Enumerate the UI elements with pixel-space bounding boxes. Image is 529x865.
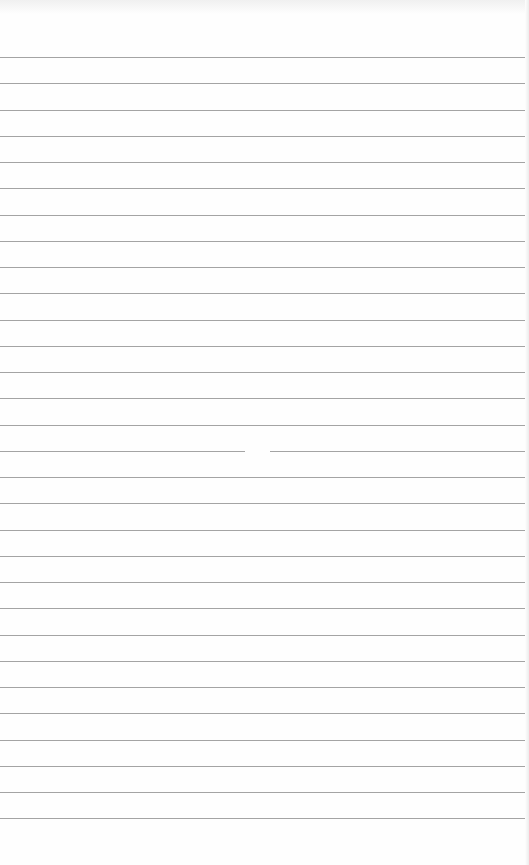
ruled-line: [0, 320, 526, 321]
ruled-line: [0, 293, 526, 294]
ruled-line: [0, 267, 526, 268]
ruled-line: [0, 83, 526, 84]
lined-paper: [0, 0, 529, 865]
top-shadow: [0, 0, 529, 14]
ruled-line: [0, 241, 526, 242]
ruled-line: [0, 188, 526, 189]
ruled-line: [0, 398, 526, 399]
ruled-line: [0, 582, 526, 583]
ruled-line: [0, 713, 526, 714]
ruled-line: [0, 57, 526, 58]
ruled-line: [0, 110, 526, 111]
ruled-line: [0, 792, 526, 793]
ruled-line: [0, 346, 526, 347]
ruled-line: [0, 635, 526, 636]
ruled-line: [0, 136, 526, 137]
ruled-line: [0, 530, 526, 531]
page-edge: [525, 0, 529, 865]
ruled-line: [0, 162, 526, 163]
ruled-line: [0, 503, 526, 504]
ruled-line: [0, 477, 526, 478]
ruled-line: [0, 608, 526, 609]
ruled-line: [0, 372, 526, 373]
ruled-line: [0, 740, 526, 741]
ruled-line: [0, 661, 526, 662]
ruled-line: [0, 818, 526, 819]
ruled-line: [0, 425, 526, 426]
ruled-line: [0, 766, 526, 767]
ruled-line: [0, 215, 526, 216]
ruled-line: [0, 687, 526, 688]
line-gap: [245, 451, 270, 452]
ruled-line: [0, 556, 526, 557]
